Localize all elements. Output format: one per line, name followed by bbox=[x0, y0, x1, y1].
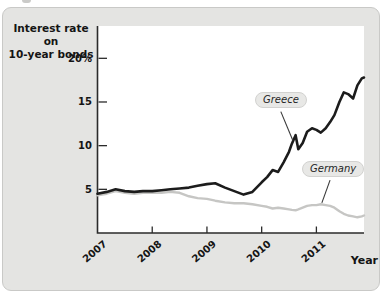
germany-series-label: Germany bbox=[302, 161, 364, 177]
x-axis-title: Year bbox=[336, 254, 378, 267]
x-tick-label: 2007 bbox=[80, 238, 108, 264]
x-tick-label: 2011 bbox=[299, 238, 327, 264]
x-tick-label: 2010 bbox=[245, 238, 273, 264]
y-axis-title: Interest rate on 10-year bonds bbox=[6, 22, 96, 61]
y-tick-label: 5 bbox=[85, 184, 92, 195]
y-axis-title-line1: Interest rate on bbox=[6, 22, 96, 48]
greece-series-label: Greece bbox=[255, 92, 307, 108]
y-tick-label: 15 bbox=[78, 96, 92, 107]
x-tick-label: 2009 bbox=[190, 238, 218, 264]
y-tick-label: 10 bbox=[78, 140, 92, 151]
figure-page: 5101520%20072008200920102011 Interest ra… bbox=[0, 0, 389, 297]
y-axis-title-line2: 10-year bonds bbox=[6, 48, 96, 61]
x-tick-label: 2008 bbox=[135, 238, 163, 264]
